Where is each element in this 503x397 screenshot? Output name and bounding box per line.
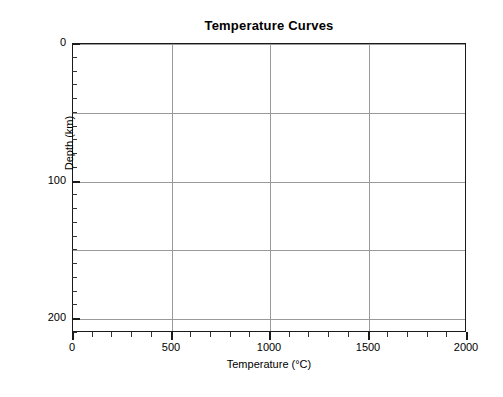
y-tick-minor (72, 222, 77, 223)
gridline-horizontal (73, 250, 465, 251)
gridline-horizontal (73, 182, 465, 183)
y-tick-minor (72, 194, 77, 195)
y-tick-minor (72, 236, 77, 237)
y-tick-minor (72, 71, 77, 72)
plot-area (72, 43, 466, 332)
chart-title: Temperature Curves (72, 18, 466, 33)
x-tick-minor (151, 332, 152, 337)
x-tick-major (269, 332, 271, 340)
x-axis-title: Temperature (°C) (72, 358, 466, 370)
x-tick-minor (446, 332, 447, 337)
y-tick-major (72, 43, 80, 45)
y-tick-major (72, 318, 80, 320)
y-tick-minor (72, 57, 77, 58)
y-tick-minor (72, 208, 77, 209)
x-tick-major (368, 332, 370, 340)
y-tick-label: 0 (60, 37, 66, 48)
y-tick-minor (72, 84, 77, 85)
y-tick-minor (72, 277, 77, 278)
y-tick-minor (72, 263, 77, 264)
x-tick-minor (348, 332, 349, 337)
x-tick-minor (308, 332, 309, 337)
x-tick-minor (328, 332, 329, 337)
x-tick-major (72, 332, 74, 340)
y-axis-title: Depth (km) (63, 93, 77, 193)
x-tick-label: 1000 (257, 342, 281, 353)
chart-figure: Temperature Curves 0100200 0500100015002… (0, 0, 503, 397)
y-tick-minor (72, 304, 77, 305)
x-tick-minor (407, 332, 408, 337)
gridline-vertical (270, 44, 271, 331)
gridline-vertical (172, 44, 173, 331)
y-tick-minor (72, 291, 77, 292)
x-tick-minor (427, 332, 428, 337)
x-tick-label: 2000 (454, 342, 478, 353)
x-tick-minor (92, 332, 93, 337)
x-tick-minor (387, 332, 388, 337)
x-tick-minor (131, 332, 132, 337)
x-tick-major (171, 332, 173, 340)
gridline-vertical (369, 44, 370, 331)
x-tick-minor (230, 332, 231, 337)
y-tick-label: 200 (48, 312, 66, 323)
y-tick-minor (72, 249, 77, 250)
x-tick-label: 1500 (356, 342, 380, 353)
gridline-horizontal (73, 44, 465, 45)
gridline-horizontal (73, 319, 465, 320)
x-tick-minor (111, 332, 112, 337)
x-tick-minor (210, 332, 211, 337)
x-tick-label: 0 (69, 342, 75, 353)
x-tick-minor (289, 332, 290, 337)
x-tick-minor (190, 332, 191, 337)
x-tick-minor (249, 332, 250, 337)
x-tick-label: 500 (162, 342, 180, 353)
x-tick-major (466, 332, 468, 340)
gridline-horizontal (73, 113, 465, 114)
